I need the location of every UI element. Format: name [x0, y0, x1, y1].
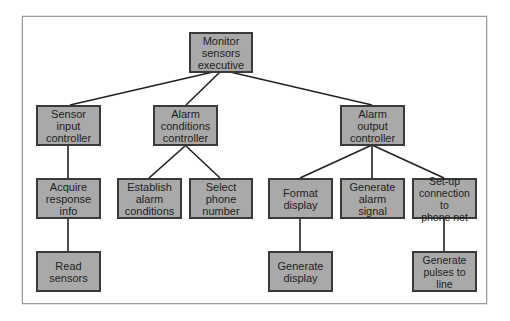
edge-alarm-conditions-establish: [149, 146, 185, 178]
edge-monitor-alarm-output: [230, 72, 372, 105]
node-select-phone-number: Select phone number: [189, 178, 253, 219]
edge-alarm-output-setup: [372, 145, 444, 178]
node-generate-pulses-to-line: Generate pulses to line: [412, 251, 477, 292]
node-format-display: Format display: [268, 178, 333, 219]
node-generate-display: Generate display: [268, 251, 333, 292]
node-sensor-input-controller: Sensor input controller: [36, 105, 101, 146]
node-setup-connection-phone-net: Set-up connection to phone net: [412, 178, 477, 219]
node-monitor-sensors-executive: Monitor sensors executive: [189, 32, 253, 73]
node-generate-alarm-signal: Generate alarm signal: [340, 178, 405, 219]
node-establish-alarm-conditions: Establish alarm conditions: [117, 178, 182, 219]
node-alarm-conditions-controller: Alarm conditions controller: [153, 105, 218, 146]
edge-alarm-conditions-select: [186, 146, 220, 178]
edge-alarm-output-format: [300, 145, 372, 178]
node-acquire-response-info: Acquire response info: [36, 178, 101, 219]
node-alarm-output-controller: Alarm output controller: [340, 105, 405, 146]
node-read-sensors: Read sensors: [36, 251, 101, 292]
